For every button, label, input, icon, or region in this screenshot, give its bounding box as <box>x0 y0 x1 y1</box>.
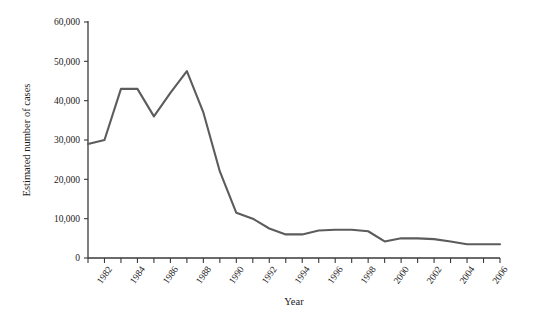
line-chart: 010,00020,00030,00040,00050,00060,000 Es… <box>0 0 533 319</box>
x-tick-label: 1984 <box>128 264 147 286</box>
x-tick-label: 2002 <box>425 264 444 286</box>
y-tick-label: 20,000 <box>54 175 80 185</box>
x-tick-label: 1994 <box>293 264 312 286</box>
x-tick-label: 2004 <box>458 264 477 286</box>
y-axis-title: Estimated number of cases <box>21 84 32 197</box>
x-tick-label: 1996 <box>326 264 345 286</box>
x-tick-label: 1992 <box>260 264 279 286</box>
y-tick-label: 10,000 <box>54 214 80 224</box>
x-tick-label: 1998 <box>359 264 378 286</box>
x-tick-label: 2000 <box>392 264 411 286</box>
chart-container: 010,00020,00030,00040,00050,00060,000 Es… <box>0 0 533 319</box>
x-tick-labels: 1982198419861988199019921994199619982000… <box>95 264 510 286</box>
y-axis-group: 010,00020,00030,00040,00050,00060,000 Es… <box>21 17 88 263</box>
y-tick-label: 0 <box>75 253 80 263</box>
y-tick-labels: 010,00020,00030,00040,00050,00060,000 <box>54 17 80 263</box>
x-axis-title: Year <box>284 296 304 307</box>
y-tick-label: 60,000 <box>54 17 80 27</box>
x-tick-label: 2006 <box>491 264 510 286</box>
x-tick-label: 1986 <box>161 264 180 286</box>
x-tick-label: 1988 <box>194 264 213 286</box>
x-axis-group: 1982198419861988199019921994199619982000… <box>88 258 510 307</box>
y-tick-label: 50,000 <box>54 57 80 67</box>
x-tick-marks <box>88 258 500 263</box>
x-tick-label: 1982 <box>95 264 114 286</box>
y-tick-label: 30,000 <box>54 135 80 145</box>
y-tick-label: 40,000 <box>54 96 80 106</box>
x-tick-label: 1990 <box>227 264 246 286</box>
data-series-line <box>88 71 500 244</box>
